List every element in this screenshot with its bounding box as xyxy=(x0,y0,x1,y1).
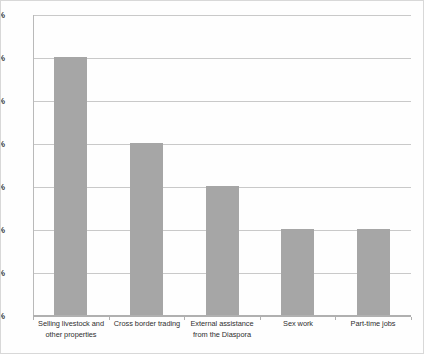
gridline-30% xyxy=(33,58,411,59)
x-category-label-line: Sex work xyxy=(260,319,336,330)
x-category-label-line: Selling livestock and xyxy=(33,319,109,330)
y-tick-label: 10% xyxy=(0,225,5,235)
x-axis-category-labels: Selling livestock andother propertiesCro… xyxy=(33,319,411,353)
bar xyxy=(357,229,390,315)
bar-chart-figure: 0%5%10%15%20%25%30%35% Selling livestock… xyxy=(0,0,424,354)
gridline-20% xyxy=(33,144,411,145)
bar xyxy=(206,186,239,315)
y-tick-label: 20% xyxy=(0,139,5,149)
y-tick-label: 35% xyxy=(0,10,5,20)
y-tick-label: 25% xyxy=(0,96,5,106)
gridline-0% xyxy=(33,316,411,317)
bar xyxy=(54,57,87,315)
gridline-25% xyxy=(33,101,411,102)
plot-area xyxy=(33,15,411,316)
y-tick-label: 5% xyxy=(0,268,5,278)
bar xyxy=(130,143,163,315)
x-category-label-line: External assistance xyxy=(184,319,260,330)
x-category-label-line: Cross border trading xyxy=(109,319,185,330)
gridline-35% xyxy=(33,15,411,16)
y-tick-label: 15% xyxy=(0,182,5,192)
x-category-label: Sex work xyxy=(260,319,336,330)
x-category-label: Part-time jobs xyxy=(335,319,411,330)
x-category-label-line: from the Diaspora xyxy=(184,330,260,341)
y-tick-label: 30% xyxy=(0,53,5,63)
x-category-label: External assistancefrom the Diaspora xyxy=(184,319,260,340)
x-category-label-line: Part-time jobs xyxy=(335,319,411,330)
y-axis-line xyxy=(33,15,34,316)
y-tick-label: 0% xyxy=(0,311,5,321)
x-category-label: Cross border trading xyxy=(109,319,185,330)
x-category-label-line: other properties xyxy=(33,330,109,341)
x-category-label: Selling livestock andother properties xyxy=(33,319,109,340)
bar xyxy=(281,229,314,315)
x-tick-mark xyxy=(411,317,412,320)
x-axis-line xyxy=(33,315,411,316)
